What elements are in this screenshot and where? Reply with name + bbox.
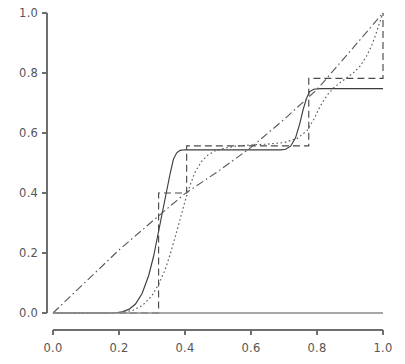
x-tick-label: 0.8 [308, 341, 327, 355]
y-tick-label: 0.8 [8, 66, 38, 80]
y-tick-label: 0.6 [8, 126, 38, 140]
x-tick-label: 0.6 [242, 341, 261, 355]
series-diagonal-reference-line [53, 13, 383, 313]
x-tick-label: 0.2 [110, 341, 129, 355]
chart-canvas [0, 0, 405, 364]
y-tick-label: 1.0 [8, 6, 38, 20]
y-tick-label: 0.0 [8, 306, 38, 320]
x-tick-label: 0.0 [44, 341, 63, 355]
series-dotted-smooth-curve [53, 13, 383, 313]
chart-plot-area: 0.00.20.40.60.81.0 0.00.20.40.60.81.0 [0, 0, 405, 364]
x-tick-label: 0.4 [176, 341, 195, 355]
x-tick-label: 1.0 [374, 341, 393, 355]
y-tick-label: 0.4 [8, 186, 38, 200]
series-empirical-step-function [119, 13, 383, 313]
series-smoothed-step-curve [53, 89, 383, 313]
y-tick-label: 0.2 [8, 246, 38, 260]
